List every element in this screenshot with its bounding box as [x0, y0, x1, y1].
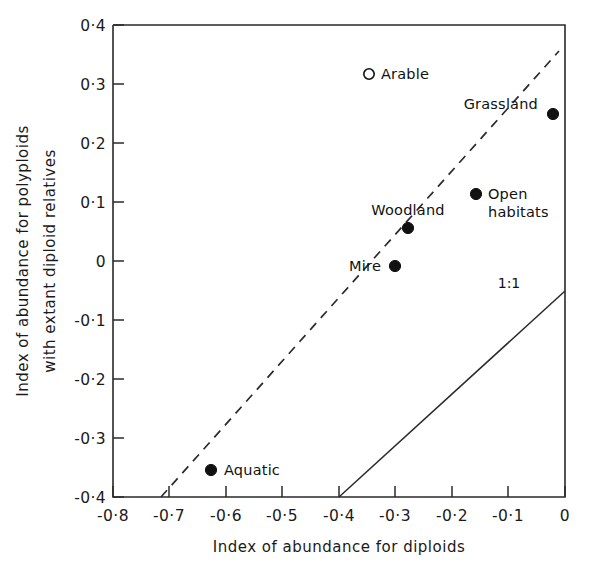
marker-filled-circle[interactable]	[389, 260, 400, 271]
x-tick-label: -0·4	[323, 507, 355, 525]
y-axis-ticks	[113, 25, 124, 497]
data-point-open-habitats[interactable]: Openhabitats	[470, 186, 548, 220]
marker-open-circle[interactable]	[364, 69, 374, 79]
one-to-one-reference-line	[339, 291, 565, 497]
data-point-label: Arable	[381, 66, 429, 82]
marker-filled-circle[interactable]	[470, 188, 481, 199]
x-tick-label: -0·2	[436, 507, 468, 525]
y-tick-label: 0·2	[80, 135, 106, 153]
y-tick-label: -0·2	[74, 371, 106, 389]
x-tick-label: -0·5	[266, 507, 298, 525]
y-tick-label: -0·1	[74, 312, 106, 330]
y-axis-title-line1: Index of abundance for polyploids	[14, 125, 32, 397]
data-point-label: Mire	[349, 258, 381, 274]
fitted-regression-line	[161, 51, 559, 497]
y-axis-title-line2: with extant diploid relatives	[41, 149, 59, 373]
x-tick-label: 0	[560, 507, 570, 525]
one-to-one-line-label: 1:1	[498, 275, 521, 291]
marker-filled-circle[interactable]	[205, 464, 216, 475]
x-axis-ticks	[113, 486, 565, 497]
marker-filled-circle[interactable]	[547, 108, 558, 119]
x-tick-label: -0·6	[210, 507, 242, 525]
data-points: Arable Grassland Openhabitats Woodland	[205, 66, 558, 478]
y-tick-label: 0	[96, 253, 106, 271]
x-axis-title: Index of abundance for diploids	[213, 538, 465, 556]
data-point-arable[interactable]: Arable	[364, 66, 429, 82]
data-point-label: Grassland	[464, 96, 538, 112]
y-tick-label: -0·3	[74, 430, 106, 448]
x-tick-label: -0·7	[153, 507, 185, 525]
data-point-label-line: habitats	[488, 204, 549, 220]
x-tick-label: -0·8	[97, 507, 129, 525]
scatter-plot-figure: 0·4 0·3 0·2 0·1 0 -0·1 -0·2 -0·3 -0·4 -0…	[0, 0, 610, 575]
y-axis-tick-labels: 0·4 0·3 0·2 0·1 0 -0·1 -0·2 -0·3 -0·4	[74, 17, 106, 507]
plot-canvas: 0·4 0·3 0·2 0·1 0 -0·1 -0·2 -0·3 -0·4 -0…	[0, 0, 610, 575]
data-point-aquatic[interactable]: Aquatic	[205, 462, 280, 478]
y-tick-label: 0·4	[80, 17, 106, 35]
x-axis-tick-labels: -0·8 -0·7 -0·6 -0·5 -0·4 -0·3 -0·2 -0·1 …	[97, 507, 570, 525]
data-point-label: Aquatic	[224, 462, 280, 478]
data-point-grassland[interactable]: Grassland	[464, 96, 559, 120]
x-tick-label: -0·1	[492, 507, 524, 525]
data-point-mire[interactable]: Mire	[349, 258, 401, 274]
data-point-woodland[interactable]: Woodland	[371, 202, 444, 234]
marker-filled-circle[interactable]	[402, 222, 413, 233]
data-point-label: Openhabitats	[488, 186, 549, 220]
data-point-label-line: Open	[488, 186, 528, 202]
data-point-label: Woodland	[371, 202, 444, 218]
y-tick-label: 0·3	[80, 76, 106, 94]
y-tick-label: 0·1	[80, 194, 106, 212]
x-tick-label: -0·3	[379, 507, 411, 525]
y-tick-label: -0·4	[74, 489, 106, 507]
